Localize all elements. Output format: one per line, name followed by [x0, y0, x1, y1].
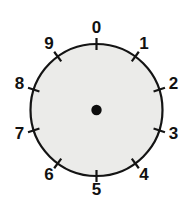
- dial-label-8: 8: [15, 74, 24, 93]
- dial-label-6: 6: [44, 165, 53, 184]
- dial-diagram: 0123456789: [0, 0, 189, 205]
- dial-label-4: 4: [139, 165, 149, 184]
- center-dot: [91, 105, 101, 115]
- dial-label-1: 1: [139, 34, 148, 53]
- dial-label-9: 9: [44, 34, 53, 53]
- dial-label-5: 5: [92, 180, 101, 199]
- dial-label-3: 3: [169, 124, 178, 143]
- dial-figure: 0123456789: [0, 0, 189, 205]
- dial-label-7: 7: [15, 124, 24, 143]
- dial-label-2: 2: [169, 74, 178, 93]
- dial-label-0: 0: [92, 18, 101, 37]
